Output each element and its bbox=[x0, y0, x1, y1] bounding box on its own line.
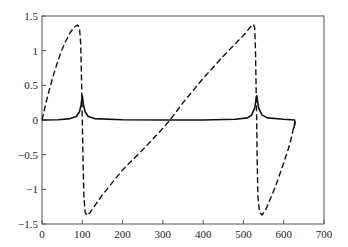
x-tick-label: 0 bbox=[39, 228, 45, 240]
y-tick-label: −0.5 bbox=[18, 149, 38, 161]
y-tick-label: −1 bbox=[26, 183, 38, 195]
series-layer bbox=[42, 24, 295, 215]
y-tick-label: 0 bbox=[33, 114, 39, 126]
x-tick-label: 700 bbox=[316, 228, 333, 240]
x-axis: 0100200300400500600700 bbox=[39, 220, 333, 240]
y-tick-label: −1.5 bbox=[18, 218, 38, 230]
x-tick-label: 100 bbox=[74, 228, 91, 240]
x-tick-label: 500 bbox=[235, 228, 252, 240]
x-tick-label: 300 bbox=[155, 228, 172, 240]
x-tick-label: 200 bbox=[114, 228, 131, 240]
y-tick-label: 1.5 bbox=[24, 10, 38, 22]
x-tick-label: 600 bbox=[275, 228, 292, 240]
y-tick-label: 1 bbox=[33, 45, 39, 57]
line-chart: 0100200300400500600700 1.510.50−0.5−1−1.… bbox=[0, 0, 348, 247]
x-tick-label: 400 bbox=[195, 228, 212, 240]
y-tick-label: 0.5 bbox=[24, 79, 38, 91]
